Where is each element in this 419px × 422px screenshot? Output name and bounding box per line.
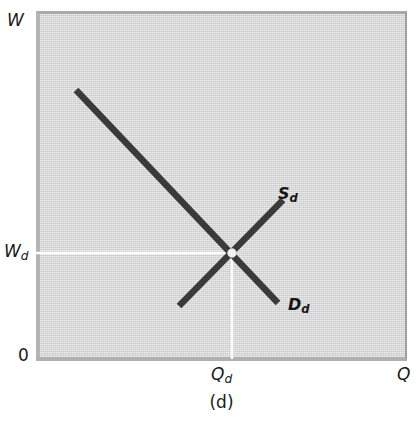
y-tick-label-subscript: d xyxy=(21,249,29,263)
plot-graphics xyxy=(36,11,407,361)
x-tick-label-base: Q xyxy=(211,364,224,384)
x-axis-label: Q xyxy=(397,366,410,383)
x-tick-label-subscript: d xyxy=(224,372,232,386)
supply-label-base: S xyxy=(278,184,290,203)
demand-label-base: D xyxy=(288,295,301,314)
demand-label-subscript: d xyxy=(301,302,309,316)
y-axis-label: W xyxy=(7,12,24,29)
supply-label-subscript: d xyxy=(290,191,298,205)
y-tick-label-wd: Wd xyxy=(4,243,29,260)
origin-label: 0 xyxy=(18,347,29,364)
supply-curve-label: Sd xyxy=(278,186,298,202)
demand-curve-label: Dd xyxy=(288,297,310,313)
figure-caption-text: (d) xyxy=(209,392,233,412)
x-tick-label-qd: Qd xyxy=(211,366,232,383)
y-tick-label-base: W xyxy=(4,241,21,261)
equilibrium-point-marker xyxy=(228,249,237,258)
figure-panel-d: W Q 0 Wd Qd Sd Dd (d) xyxy=(0,0,419,422)
figure-caption: (d) xyxy=(0,392,419,412)
demand-curve xyxy=(76,90,278,303)
